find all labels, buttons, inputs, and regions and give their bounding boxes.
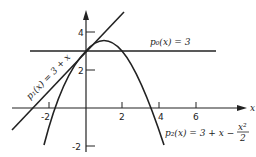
svg-text:2: 2: [239, 133, 246, 143]
x-axis-label: x: [250, 103, 255, 113]
x-axis-arrow-icon: [237, 105, 247, 111]
curve-p1: [12, 12, 124, 130]
label-p2: p₂(x) = 3 + x − x² 2: [165, 122, 249, 143]
x-tick-6: 6: [193, 112, 199, 122]
taylor-polynomials-diagram: -2 2 4 6 4 2 -2 x p₀(x) = 3 p₁(x) = 3 + …: [0, 0, 256, 157]
x-tick-2: 2: [119, 112, 125, 122]
svg-text:p₂(x) = 3 + x −: p₂(x) = 3 + x −: [165, 128, 234, 138]
y-tick-2: 2: [78, 66, 84, 76]
x-axis: [12, 105, 247, 111]
y-tick-4: 4: [78, 28, 84, 38]
y-axis: [83, 10, 89, 152]
svg-text:x²: x²: [238, 122, 247, 132]
y-axis-arrow-icon: [83, 10, 89, 20]
label-p1: p₁(x) = 3 + x: [24, 52, 72, 101]
label-p0: p₀(x) = 3: [150, 37, 191, 47]
x-tick-neg2: -2: [41, 112, 50, 122]
x-tick-4: 4: [158, 112, 164, 122]
y-tick-neg2: -2: [72, 142, 81, 152]
